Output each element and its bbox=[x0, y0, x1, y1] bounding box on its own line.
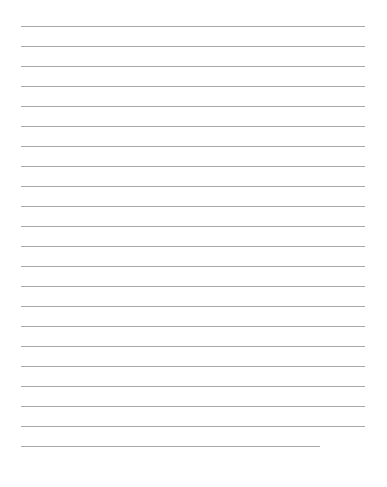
ruled-line bbox=[21, 166, 365, 167]
lined-page bbox=[0, 0, 387, 487]
ruled-line bbox=[21, 446, 320, 447]
ruled-line bbox=[21, 406, 365, 407]
ruled-line bbox=[21, 366, 365, 367]
ruled-line bbox=[21, 266, 365, 267]
ruled-line bbox=[21, 26, 365, 27]
ruled-line bbox=[21, 326, 365, 327]
ruled-line bbox=[21, 126, 365, 127]
ruled-line bbox=[21, 226, 365, 227]
ruled-line bbox=[21, 146, 365, 147]
ruled-line bbox=[21, 246, 365, 247]
ruled-line bbox=[21, 306, 365, 307]
ruled-line bbox=[21, 186, 365, 187]
ruled-line bbox=[21, 386, 365, 387]
ruled-line bbox=[21, 346, 365, 347]
ruled-line bbox=[21, 86, 365, 87]
ruled-line bbox=[21, 46, 365, 47]
ruled-line bbox=[21, 286, 365, 287]
ruled-line bbox=[21, 106, 365, 107]
ruled-line bbox=[21, 426, 365, 427]
ruled-line bbox=[21, 206, 365, 207]
ruled-line bbox=[21, 66, 365, 67]
